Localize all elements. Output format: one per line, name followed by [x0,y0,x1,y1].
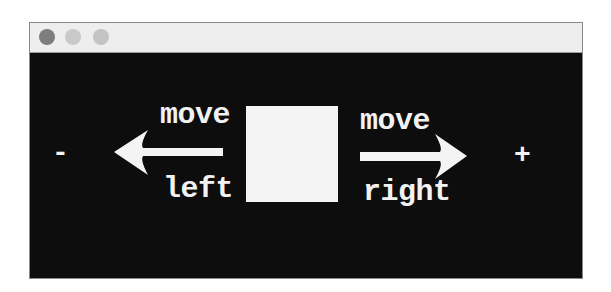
move-right-label-bottom: right [363,177,451,207]
titlebar [30,23,582,53]
zoom-button[interactable] [93,29,109,45]
increase-sign: + [514,142,531,170]
arrow-right-icon [360,134,468,180]
player-square [246,106,338,202]
game-canvas[interactable]: - move left move right + [30,53,582,278]
move-right-label-top: move [360,106,430,136]
decrease-sign: - [52,140,69,168]
move-left-label-bottom: left [163,174,233,204]
minimize-button[interactable] [65,29,81,45]
arrow-left-icon [114,130,224,176]
app-window: - move left move right + [29,22,583,279]
move-left-label-top: move [160,100,230,130]
close-button[interactable] [39,29,55,45]
